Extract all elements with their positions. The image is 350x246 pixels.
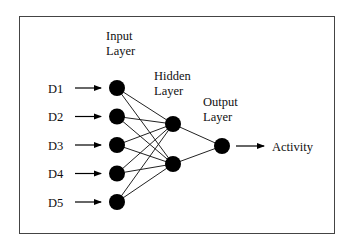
edge-input-5-hidden-2: [117, 164, 173, 202]
input-node-2: [109, 109, 125, 125]
output-layer-label-1: Output: [203, 95, 238, 109]
hidden-layer-label-2: Layer: [154, 84, 184, 98]
edge-input-5-hidden-1: [117, 124, 173, 202]
input-label-5: D5: [48, 196, 63, 210]
output-node: [214, 138, 230, 154]
edge-input-1-hidden-2: [117, 88, 173, 164]
edge-input-3-hidden-2: [117, 145, 173, 164]
input-label-1: D1: [48, 82, 63, 96]
input-node-4: [109, 166, 125, 182]
edge-input-4-hidden-1: [117, 124, 173, 174]
hidden-layer-label-1: Hidden: [154, 69, 192, 83]
input-label-3: D3: [48, 139, 63, 153]
output-label: Activity: [272, 140, 314, 154]
input-label-2: D2: [48, 110, 63, 124]
edge-input-3-hidden-1: [117, 124, 173, 145]
input-node-3: [109, 137, 125, 153]
input-node-1: [109, 80, 125, 96]
edge-input-2-hidden-1: [117, 117, 173, 125]
input-node-5: [109, 194, 125, 210]
edge-input-2-hidden-2: [117, 117, 173, 165]
hidden-node-2: [165, 156, 181, 172]
input-label-4: D4: [48, 167, 64, 181]
edge-hidden-1-output: [173, 124, 222, 146]
input-layer-label-1: Input: [106, 29, 133, 43]
input-layer-label-2: Layer: [106, 44, 136, 58]
neural-network-diagram: Input Layer Hidden Layer Output Layer D1…: [0, 0, 350, 246]
output-layer-label-2: Layer: [203, 110, 233, 124]
hidden-node-1: [165, 116, 181, 132]
